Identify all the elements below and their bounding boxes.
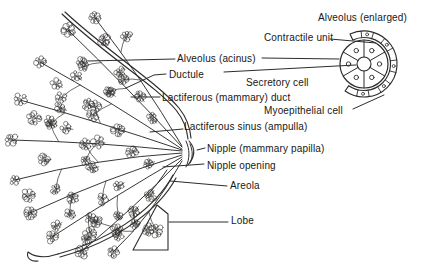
label-secretory-cell: Secretory cell — [246, 77, 309, 88]
label-lobe: Lobe — [231, 215, 254, 226]
label-contractile-unit: Contractile unit — [264, 32, 333, 43]
label-alveolus-acinus: Alveolus (acinus) — [177, 53, 256, 64]
label-nipple-opening: Nipple opening — [207, 160, 276, 171]
label-myoepithelial-cell: Myoepithelial cell — [264, 105, 343, 116]
label-nipple: Nipple (mammary papilla) — [207, 143, 325, 154]
label-areola: Areola — [230, 180, 260, 191]
breast-illustration — [5, 12, 192, 262]
label-lactiferous-sinus: Lactiferous sinus (ampulla) — [184, 121, 308, 132]
breast-anatomy-diagram: Alveolus (enlarged) Contractile unit Alv… — [0, 0, 424, 278]
label-alveolus-enlarged: Alveolus (enlarged) — [318, 12, 407, 23]
label-ductule: Ductule — [169, 69, 204, 80]
diagram-canvas — [0, 0, 424, 278]
label-lactiferous-duct: Lactiferous (mammary) duct — [162, 92, 290, 103]
